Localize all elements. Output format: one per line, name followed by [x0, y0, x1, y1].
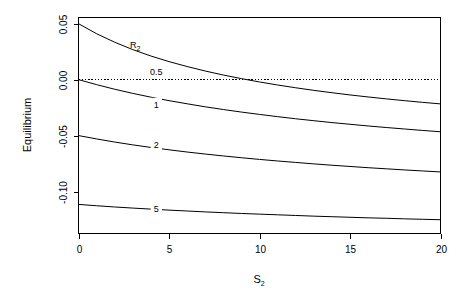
x-tick-label: 5 — [167, 244, 173, 255]
data-curves — [79, 24, 441, 220]
y-axis-ticks — [74, 25, 79, 193]
x-axis-tick-labels: 05101520 — [77, 244, 448, 255]
legend-title-subscript: 2 — [137, 45, 141, 52]
y-tick-label: -0.10 — [58, 181, 69, 204]
curve-label: 2 — [154, 140, 159, 150]
x-axis-title: S2 — [253, 273, 264, 287]
y-axis-title: Equilibrium — [21, 98, 33, 152]
curve-label: 5 — [154, 204, 159, 214]
x-axis-title-subscript: 2 — [261, 280, 265, 287]
curve-labels: 0.5125 — [146, 65, 168, 214]
x-tick-label: 20 — [436, 244, 448, 255]
series-line — [79, 136, 441, 172]
series-line — [79, 204, 441, 219]
series-line — [79, 80, 441, 132]
x-tick-label: 0 — [77, 244, 83, 255]
y-tick-label: 0.05 — [58, 14, 69, 34]
x-tick-label: 10 — [255, 244, 267, 255]
x-axis-ticks — [80, 234, 442, 239]
x-tick-label: 15 — [345, 244, 357, 255]
series-line — [79, 24, 441, 104]
curve-label: 1 — [154, 100, 159, 110]
chart-figure: 0.050.00-0.05-0.10 05101520 0.5125 R2 Eq… — [0, 0, 473, 299]
x-axis-title-base: S — [253, 273, 260, 285]
curve-label: 0.5 — [150, 67, 163, 77]
y-axis-tick-labels: 0.050.00-0.05-0.10 — [58, 14, 69, 204]
y-tick-label: -0.05 — [58, 125, 69, 148]
equilibrium-vs-s2-line-chart: 0.050.00-0.05-0.10 05101520 0.5125 R2 Eq… — [0, 0, 473, 299]
y-tick-label: 0.00 — [58, 70, 69, 90]
